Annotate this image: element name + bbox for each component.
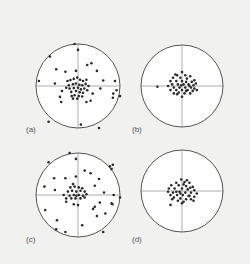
data-point (169, 80, 172, 83)
data-point (193, 189, 196, 192)
data-point (175, 191, 178, 194)
data-point (102, 231, 105, 234)
data-point (75, 158, 78, 161)
data-point (75, 90, 78, 93)
data-point (56, 219, 59, 222)
data-point (184, 191, 187, 194)
data-point (94, 185, 97, 188)
panel-label-b: (b) (132, 125, 142, 134)
data-point (177, 83, 180, 86)
data-point (73, 78, 76, 81)
data-point (171, 198, 174, 201)
data-point (86, 89, 89, 92)
data-point (104, 212, 107, 215)
data-point (172, 191, 175, 194)
data-point (86, 64, 89, 67)
data-point (182, 183, 185, 186)
data-point (103, 191, 106, 194)
data-point (74, 197, 77, 200)
data-point (70, 91, 73, 94)
data-point (178, 86, 181, 89)
data-point (68, 195, 71, 198)
data-point (79, 190, 82, 193)
data-point (72, 83, 75, 86)
data-point (179, 197, 182, 200)
data-point (91, 92, 94, 95)
data-point (72, 97, 75, 100)
data-point (172, 77, 175, 80)
data-point (80, 123, 83, 126)
data-point (170, 184, 173, 187)
data-point (73, 203, 76, 206)
data-point (173, 187, 176, 190)
data-point (85, 101, 88, 104)
data-point (112, 92, 115, 95)
data-point (78, 194, 81, 197)
data-point (89, 99, 92, 102)
data-point (182, 83, 185, 86)
data-point (96, 215, 99, 218)
data-point (174, 73, 177, 76)
data-point (169, 194, 172, 197)
data-point (179, 77, 182, 80)
data-point (185, 81, 188, 84)
data-point (191, 90, 194, 93)
data-point (77, 86, 80, 89)
data-point (110, 168, 113, 171)
data-point (114, 80, 117, 83)
data-point (193, 87, 196, 90)
data-point (66, 80, 69, 83)
data-point (78, 91, 81, 94)
data-point (73, 87, 76, 90)
data-point (185, 185, 188, 188)
data-point (183, 181, 186, 184)
data-point (99, 201, 102, 204)
data-point (98, 178, 101, 181)
data-point (188, 85, 191, 88)
data-point (176, 93, 179, 96)
data-point (47, 120, 50, 123)
data-point (68, 87, 71, 90)
data-point (89, 172, 92, 175)
data-point (81, 224, 84, 227)
data-point (73, 94, 76, 97)
data-point (191, 81, 194, 84)
panel-a (36, 43, 121, 130)
data-point (175, 89, 178, 92)
figure-container: (a) (b) (c) (d) (0, 0, 250, 264)
data-point (64, 70, 67, 73)
data-point (80, 88, 83, 91)
data-point (156, 86, 159, 89)
data-point (67, 190, 70, 193)
data-point (75, 82, 78, 85)
data-point (180, 178, 183, 181)
data-point (181, 202, 184, 205)
data-point (81, 84, 84, 87)
data-point (181, 71, 184, 74)
data-point (82, 91, 85, 94)
data-point (65, 200, 68, 203)
data-point (189, 186, 192, 189)
data-point (73, 194, 76, 197)
data-point (68, 84, 71, 87)
data-point (60, 101, 63, 104)
data-point (65, 197, 68, 200)
data-point (169, 204, 172, 207)
data-point (55, 68, 58, 71)
data-point (49, 55, 52, 58)
data-point (110, 202, 113, 205)
panel-label-d: (d) (132, 235, 142, 244)
data-point (196, 89, 199, 92)
data-point (173, 92, 176, 95)
data-point (69, 79, 72, 82)
data-point (186, 77, 189, 80)
data-point (184, 86, 187, 89)
panel-label-a: (a) (26, 125, 36, 134)
data-point (76, 76, 79, 79)
data-point (92, 208, 95, 211)
data-point (78, 83, 81, 86)
panel-d (141, 150, 223, 232)
data-point (190, 191, 193, 194)
data-point (167, 85, 170, 88)
data-point (76, 97, 79, 100)
